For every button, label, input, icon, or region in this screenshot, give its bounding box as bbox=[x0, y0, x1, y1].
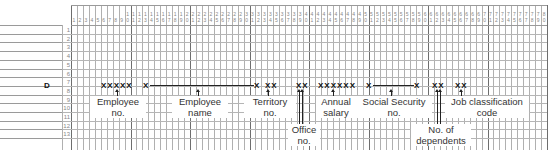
label-line: Social Security bbox=[358, 96, 430, 107]
row-number: 1 bbox=[62, 26, 70, 34]
label-territory-no: Territory no. bbox=[244, 96, 296, 118]
label-line: name bbox=[174, 107, 226, 118]
row-label-line bbox=[0, 69, 62, 70]
record-code-d: D bbox=[44, 81, 50, 90]
row-label-line bbox=[0, 34, 62, 35]
label-line: code bbox=[447, 107, 527, 118]
row-number: 3 bbox=[62, 43, 70, 51]
label-line: Job classification bbox=[447, 96, 527, 107]
row-number: 12 bbox=[62, 122, 70, 130]
no-of-dependents-arrow-2-icon bbox=[440, 91, 441, 124]
row-label-line bbox=[0, 86, 62, 87]
row-number: 6 bbox=[62, 70, 70, 78]
label-line: Employee bbox=[174, 96, 226, 107]
label-line: no. bbox=[290, 135, 318, 146]
row-number: 8 bbox=[62, 87, 70, 95]
row-number-border bbox=[62, 25, 63, 150]
no-of-dependents-arrow-icon bbox=[437, 91, 438, 124]
employee-name-span-line bbox=[150, 85, 254, 86]
row-label-line bbox=[0, 112, 62, 113]
grid-row-line bbox=[62, 69, 547, 70]
employee-name-end-mask: X bbox=[254, 82, 260, 90]
label-line: no. bbox=[92, 107, 144, 118]
label-line: no. bbox=[246, 107, 294, 118]
label-line: Territory bbox=[246, 96, 294, 107]
employee-name-start-mask: X bbox=[143, 82, 149, 90]
row-label-line bbox=[0, 121, 62, 122]
grid-row-line bbox=[62, 34, 547, 35]
row-label-line bbox=[0, 60, 62, 61]
label-line: dependents bbox=[413, 135, 469, 146]
row-number: 9 bbox=[62, 96, 70, 104]
row-number: 2 bbox=[62, 35, 70, 43]
row-label-line bbox=[0, 129, 62, 130]
label-line: salary bbox=[318, 107, 354, 118]
label-social-security-no: Social Security no. bbox=[356, 96, 432, 118]
row-number: 7 bbox=[62, 78, 70, 86]
row-number: 4 bbox=[62, 52, 70, 60]
row-label-line bbox=[0, 42, 62, 43]
row-number: 11 bbox=[62, 113, 70, 121]
row-label-line bbox=[0, 25, 62, 26]
row-label-line bbox=[0, 138, 62, 139]
row-label-line bbox=[0, 103, 62, 104]
grid-row-line bbox=[62, 60, 547, 61]
row-label-line bbox=[0, 95, 62, 96]
label-line: No. of bbox=[413, 124, 469, 135]
column-number-units: 0 bbox=[541, 18, 547, 23]
label-employee-name: Employee name bbox=[172, 96, 228, 118]
label-line: Office bbox=[290, 124, 318, 135]
label-no-of-dependents: No. of dependents bbox=[411, 124, 471, 146]
grid-header-line bbox=[71, 25, 547, 26]
grid-header-line bbox=[71, 5, 547, 6]
label-line: Annual bbox=[318, 96, 354, 107]
grid-row-line bbox=[62, 121, 547, 122]
row-number: 10 bbox=[62, 104, 70, 112]
row-number: 5 bbox=[62, 61, 70, 69]
label-job-classification-code: Job classification code bbox=[445, 96, 529, 118]
office-no-arrow-icon bbox=[299, 91, 300, 124]
label-office-no: Office no. bbox=[288, 124, 320, 146]
label-line: Employee bbox=[92, 96, 144, 107]
label-line: no. bbox=[358, 107, 430, 118]
row-label-line bbox=[0, 51, 62, 52]
grid-row-line bbox=[62, 77, 547, 78]
ssn-start-mask: X bbox=[366, 82, 372, 90]
row-number: 13 bbox=[62, 130, 70, 138]
ssn-end-mask: X bbox=[414, 82, 420, 90]
annual-salary-mask: XXXXXX bbox=[318, 82, 356, 90]
grid-row-line bbox=[62, 42, 547, 43]
office-no-arrow-2-icon bbox=[302, 91, 303, 124]
grid-row-line bbox=[62, 51, 547, 52]
ssn-span-line bbox=[373, 85, 414, 86]
label-annual-salary: Annual salary bbox=[316, 96, 356, 118]
label-employee-no: Employee no. bbox=[90, 96, 146, 118]
row-label-line bbox=[0, 77, 62, 78]
